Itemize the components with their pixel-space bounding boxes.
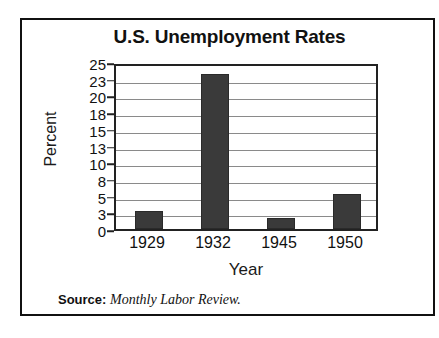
x-axis-title: Year	[114, 260, 378, 280]
y-axis-tick-label: 10	[89, 157, 106, 172]
y-axis-tick-label: 3	[98, 207, 106, 222]
bar-slot	[248, 66, 314, 229]
y-axis-tick-mark	[107, 113, 114, 115]
y-axis-tick-label: 8	[98, 173, 106, 188]
scan-artifact-strip: · · ·· · · ··· · ·· · · ·· · ·	[0, 0, 439, 16]
x-axis-tick-label: 1932	[195, 234, 231, 252]
y-axis-tick-mark	[107, 130, 114, 132]
y-axis-tick-label: 13	[89, 140, 106, 155]
y-axis-tick-mark	[107, 80, 114, 82]
y-axis-tick-mark	[107, 147, 114, 149]
bar-1932[interactable]	[201, 74, 229, 229]
y-axis-tick-mark	[107, 214, 114, 216]
y-axis-tick-mark	[107, 180, 114, 182]
bar-slot	[182, 66, 248, 229]
y-axis-tick-mark	[107, 63, 114, 65]
source-note: Source: Monthly Labor Review.	[58, 292, 241, 308]
x-axis-tick-label: 1929	[129, 234, 165, 252]
bar-slot	[116, 66, 182, 229]
gridline	[116, 232, 376, 233]
y-axis-tick-label: 0	[98, 224, 106, 239]
y-axis-tick-mark	[107, 97, 114, 99]
x-axis-tick-group: 1929193219451950	[114, 234, 378, 258]
y-axis-tick-label: 23	[89, 73, 106, 88]
x-axis-tick-label: 1945	[261, 234, 297, 252]
y-axis-tick-mark	[107, 197, 114, 199]
bar-1929[interactable]	[135, 211, 163, 229]
y-axis-tick-mark	[107, 230, 114, 232]
bar-1950[interactable]	[333, 194, 361, 229]
y-axis-tick-label: 25	[89, 57, 106, 72]
scan-ghost-text: · · ·· · · ··· · ·· · · ·· · ·	[52, 0, 229, 5]
figure-frame: U.S. Unemployment Rates Percent 25232018…	[20, 18, 435, 316]
source-label: Source:	[58, 292, 106, 307]
y-axis-tick-label: 15	[89, 123, 106, 138]
y-axis-tick-label: 20	[89, 90, 106, 105]
source-value: Monthly Labor Review.	[110, 292, 241, 307]
y-axis-tick-mark	[107, 163, 114, 165]
y-axis-tick-group: 252320181513108530	[74, 64, 114, 231]
bar-1945[interactable]	[267, 218, 295, 229]
x-axis-tick-label: 1950	[327, 234, 363, 252]
y-axis-title: Percent	[42, 94, 60, 184]
bar-slot	[314, 66, 380, 229]
bars-layer	[116, 66, 376, 229]
chart-title: U.S. Unemployment Rates	[22, 26, 437, 48]
y-axis-tick-label: 5	[98, 190, 106, 205]
plot-area	[114, 64, 378, 231]
y-axis-tick-label: 18	[89, 107, 106, 122]
